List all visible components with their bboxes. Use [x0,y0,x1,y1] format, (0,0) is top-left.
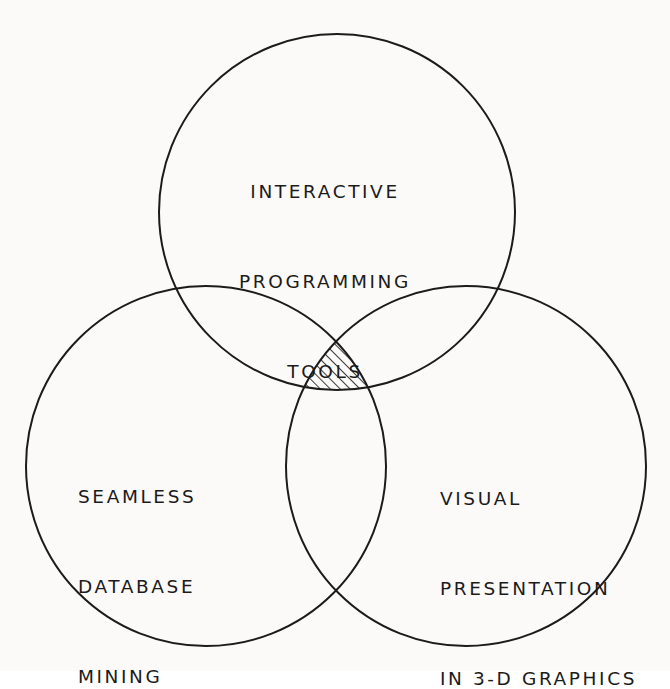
label-left-line-3: MINING [78,662,196,689]
label-top-line-1: INTERACTIVE [180,177,470,207]
label-left-line-1: SEAMLESS [78,482,196,512]
label-top-circle: INTERACTIVE PROGRAMMING TOOLS [180,117,470,447]
label-right-circle: VISUAL PRESENTATION IN 3-D GRAPHICS [440,424,637,689]
label-top-line-2: PROGRAMMING [180,267,470,297]
label-left-circle: SEAMLESS DATABASE MINING [78,422,196,689]
label-right-line-2: PRESENTATION [440,574,637,604]
label-left-line-2: DATABASE [78,572,196,602]
label-right-line-1: VISUAL [440,484,637,514]
label-top-line-3: TOOLS [180,357,470,387]
label-right-line-3: IN 3-D GRAPHICS [440,664,637,689]
